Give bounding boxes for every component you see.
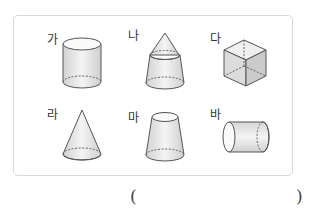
figure-label: 가 (47, 34, 58, 46)
figure-ma: 마 (128, 112, 218, 184)
answer-blank[interactable] (142, 188, 292, 208)
figure-label: 마 (128, 112, 139, 124)
figure-ra: 라 (47, 109, 137, 181)
figure-da: 다 (210, 33, 300, 105)
answer-close-paren: ) (296, 186, 303, 206)
figure-label: 다 (210, 33, 221, 45)
figure-ga: 가 (47, 34, 137, 106)
figure-ba: 바 (210, 109, 300, 181)
cube-icon (222, 36, 268, 88)
figures-panel: 가 나 다 라 (13, 15, 293, 176)
figure-label: 나 (128, 30, 139, 42)
frustum-icon (142, 110, 188, 166)
figure-label: 라 (47, 109, 58, 121)
lying-cylinder-icon (220, 119, 272, 155)
cylinder-icon (60, 36, 104, 92)
cone-icon (59, 108, 105, 164)
cone-frustum-icon (142, 31, 188, 93)
figure-na: 나 (128, 30, 218, 102)
answer-open-paren: ( (130, 186, 137, 206)
